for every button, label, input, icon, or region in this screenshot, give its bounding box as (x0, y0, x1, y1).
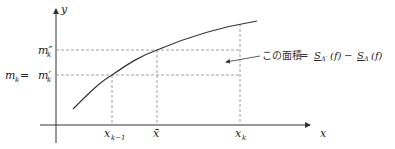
function-curve (73, 21, 257, 109)
svg-text:k−1: k−1 (111, 134, 126, 142)
svg-text:S: S (357, 50, 364, 61)
svg-text:(f): (f) (371, 50, 383, 61)
svg-text:x̄: x̄ (153, 127, 160, 140)
svg-text:この面積: この面積 (262, 49, 302, 61)
svg-text:m: m (5, 69, 15, 82)
svg-text:−: − (344, 50, 352, 61)
svg-text:(f): (f) (330, 50, 342, 61)
svg-text:Δ′: Δ′ (320, 55, 328, 63)
x-tick-x-k-minus-1: x k−1 (104, 127, 126, 142)
svg-text:x: x (235, 127, 242, 140)
svg-text:S: S (314, 50, 321, 61)
diagram-svg: y x m″ k m k = m′ k x k−1 x̄ x k この面積 = … (0, 0, 395, 149)
svg-text:Δ: Δ (363, 55, 369, 63)
svg-text:=: = (300, 50, 308, 61)
y-axis-label: y (60, 3, 68, 16)
diagram-canvas: y x m″ k m k = m′ k x k−1 x̄ x k この面積 = … (0, 0, 395, 149)
x-tick-x-k: x k (235, 127, 246, 142)
y-tick-m-double-prime: m″ k (38, 44, 53, 59)
svg-text:k: k (15, 76, 19, 84)
annotation-arrow (226, 56, 260, 62)
svg-text:k: k (47, 76, 51, 84)
x-axis-label: x (320, 127, 327, 140)
svg-text:k: k (47, 51, 51, 59)
area-annotation: この面積 = S Δ′ (f) − S Δ (f) (262, 49, 383, 63)
svg-text:=: = (20, 69, 29, 82)
svg-text:k: k (242, 134, 246, 142)
x-tick-x-bar: x̄ (153, 127, 160, 140)
y-tick-m-prime: m k = m′ k (5, 69, 51, 84)
svg-text:x: x (104, 127, 111, 140)
